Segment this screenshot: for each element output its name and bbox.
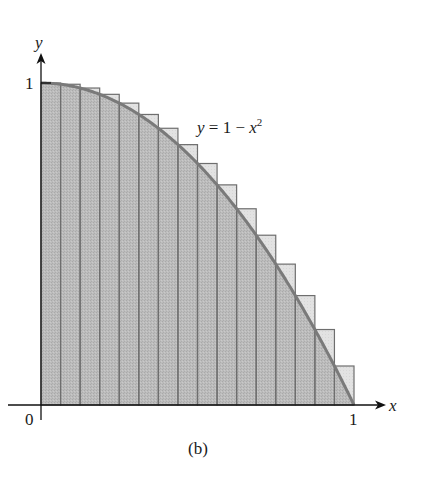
bar-lower-part bbox=[119, 103, 139, 405]
y-tick-label-one: 1 bbox=[25, 74, 34, 93]
x-axis-label: x bbox=[388, 396, 397, 415]
y-axis-label: y bbox=[33, 33, 43, 52]
bar-lower-part bbox=[198, 164, 218, 406]
origin-label: 0 bbox=[25, 410, 34, 429]
bar-lower-part bbox=[41, 83, 61, 405]
bar-lower-part bbox=[61, 84, 81, 405]
bar-lower-part bbox=[178, 145, 198, 405]
bar-lower-part bbox=[217, 185, 237, 405]
figure: y x 1 0 1 y = 1 − x2 (b) bbox=[0, 0, 426, 489]
figure-caption: (b) bbox=[188, 439, 208, 458]
bar-lower-part bbox=[100, 94, 120, 405]
riemann-sum-chart: y x 1 0 1 y = 1 − x2 (b) bbox=[0, 0, 426, 489]
x-tick-label-one: 1 bbox=[349, 410, 358, 429]
curve-equation-label: y = 1 − x2 bbox=[195, 116, 262, 137]
bar-lower-part bbox=[237, 209, 257, 405]
bar-lower-part bbox=[80, 88, 100, 405]
bar-lower-part bbox=[158, 128, 178, 405]
bar-lower-part bbox=[139, 114, 159, 405]
